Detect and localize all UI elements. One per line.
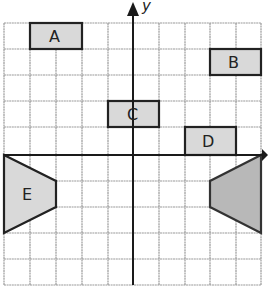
label-c: C <box>127 105 138 124</box>
y-axis-arrow-icon <box>127 2 139 16</box>
y-axis-label: y <box>142 0 151 15</box>
label-e: E <box>22 185 32 204</box>
coordinate-grid-diagram <box>0 0 268 297</box>
label-d: D <box>202 132 214 151</box>
x-axis-arrow-icon <box>262 149 268 161</box>
label-b: B <box>228 53 239 72</box>
label-a: A <box>49 27 60 46</box>
